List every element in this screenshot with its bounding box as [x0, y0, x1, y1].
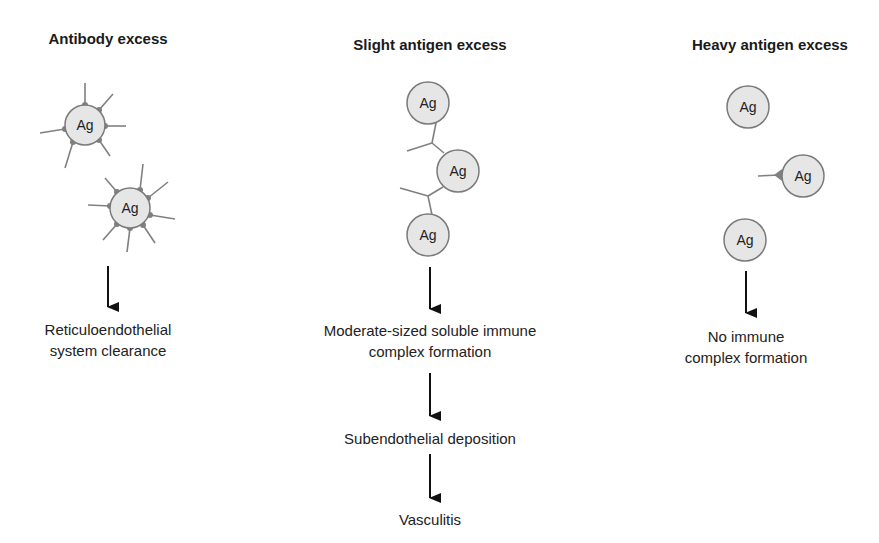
label-line: complex formation — [324, 341, 537, 362]
antigen-label: Ag — [736, 232, 753, 248]
antigen-label: Ag — [76, 117, 93, 133]
label-line: Subendothelial deposition — [344, 428, 516, 449]
antigen-antibody-complex-2: Ag — [88, 164, 175, 252]
antigen-label: Ag — [739, 99, 756, 115]
label-line: complex formation — [685, 347, 808, 368]
antigen-label: Ag — [419, 95, 436, 111]
label-line: system clearance — [45, 340, 172, 361]
antigen-antibody-complex-1: Ag — [40, 83, 126, 168]
free-antigens: Ag Ag Ag — [724, 86, 824, 261]
antigen-label: Ag — [449, 163, 466, 179]
outcome-subendothelial-deposition: Subendothelial deposition — [344, 428, 516, 449]
outcome-vasculitis: Vasculitis — [399, 509, 461, 530]
label-line: Reticuloendothelial — [45, 319, 172, 340]
label-line: Moderate-sized soluble immune — [324, 320, 537, 341]
outcome-no-immune-complex: No immune complex formation — [685, 326, 808, 368]
antigen-label: Ag — [794, 168, 811, 184]
outcome-immune-complex-formation: Moderate-sized soluble immune complex fo… — [324, 320, 537, 362]
diagram-art: Ag Ag — [0, 0, 879, 543]
antigen-label: Ag — [121, 200, 138, 216]
label-line: Vasculitis — [399, 509, 461, 530]
outcome-reticuloendothelial-clearance: Reticuloendothelial system clearance — [45, 319, 172, 361]
antigen-label: Ag — [419, 227, 436, 243]
label-line: No immune — [685, 326, 808, 347]
antigen-lattice: Ag Ag Ag — [400, 82, 479, 256]
